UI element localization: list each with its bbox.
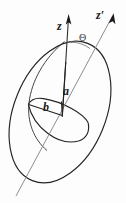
z-axis-label: z (57, 20, 62, 32)
equatorial-ellipse-back (28, 98, 88, 123)
semi-major-axis-label: a (63, 85, 69, 97)
meridian-arc (29, 42, 65, 151)
z-prime-arrowhead-icon (109, 13, 116, 24)
figure-canvas (0, 0, 126, 203)
equatorial-ellipse-front (28, 104, 88, 142)
semi-minor-axis-label: b (43, 101, 49, 113)
tilt-angle-label: Θ (79, 33, 86, 43)
spheroid-orientation-figure: z z′ Θ a b (0, 0, 126, 203)
z-prime-axis-label: z′ (96, 9, 104, 21)
